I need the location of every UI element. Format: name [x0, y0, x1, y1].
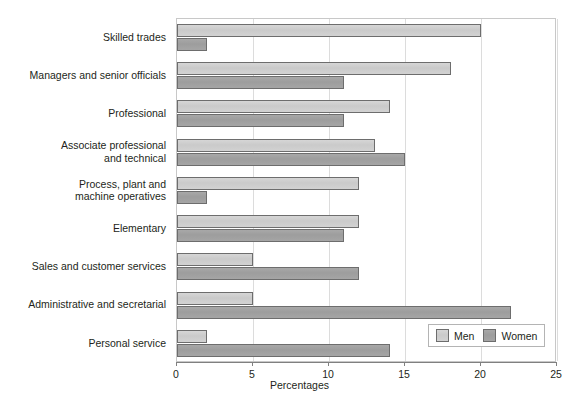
- bar-group: [177, 19, 555, 57]
- y-axis-labels: Skilled tradesManagers and senior offici…: [0, 18, 172, 362]
- y-axis-label: Personal service: [0, 337, 166, 350]
- bar-group: [177, 95, 555, 133]
- bar-men: [177, 253, 253, 266]
- gridline-25: [557, 19, 558, 361]
- x-tick-15: [404, 362, 405, 366]
- x-tick-20: [480, 362, 481, 366]
- bar-men: [177, 139, 375, 152]
- x-axis: 0510152025: [176, 362, 556, 363]
- bar-women: [177, 306, 511, 319]
- bar-group: [177, 172, 555, 210]
- bar-women: [177, 229, 344, 242]
- bar-chart: Skilled tradesManagers and senior offici…: [0, 0, 587, 405]
- y-axis-label: Skilled trades: [0, 31, 166, 44]
- bar-women: [177, 267, 359, 280]
- bar-men: [177, 100, 390, 113]
- bar-men: [177, 215, 359, 228]
- bar-group: [177, 287, 555, 325]
- legend-label-women: Women: [501, 330, 537, 342]
- bar-men: [177, 292, 253, 305]
- x-tick-10: [328, 362, 329, 366]
- x-tick-0: [176, 362, 177, 366]
- x-tick-25: [556, 362, 557, 366]
- bar-men: [177, 62, 451, 75]
- bar-women: [177, 344, 390, 357]
- legend-entry-women: Women: [483, 329, 537, 342]
- bar-group: [177, 248, 555, 286]
- bar-men: [177, 177, 359, 190]
- x-tick-5: [252, 362, 253, 366]
- bar-women: [177, 114, 344, 127]
- bar-group: [177, 134, 555, 172]
- y-axis-label: Administrative and secretarial: [0, 298, 166, 311]
- legend-swatch-women-icon: [483, 329, 496, 342]
- plot-area: [176, 18, 556, 362]
- bar-women: [177, 76, 344, 89]
- y-axis-label: Process, plant and machine operatives: [0, 178, 166, 203]
- bar-women: [177, 153, 405, 166]
- y-axis-label: Sales and customer services: [0, 260, 166, 273]
- bar-men: [177, 24, 481, 37]
- bar-group: [177, 210, 555, 248]
- y-axis-label: Associate professional and technical: [0, 139, 166, 164]
- x-axis-title-text: Percentages: [270, 379, 329, 391]
- bar-women: [177, 191, 207, 204]
- y-axis-label: Elementary: [0, 222, 166, 235]
- legend-label-men: Men: [454, 330, 474, 342]
- bar-women: [177, 38, 207, 51]
- chart-legend: Men Women: [428, 324, 545, 347]
- x-axis-title: Percentages: [0, 379, 587, 391]
- y-axis-label: Professional: [0, 107, 166, 120]
- y-axis-label: Managers and senior officials: [0, 69, 166, 82]
- bar-men: [177, 330, 207, 343]
- legend-swatch-men-icon: [436, 329, 449, 342]
- legend-entry-men: Men: [436, 329, 474, 342]
- bar-group: [177, 57, 555, 95]
